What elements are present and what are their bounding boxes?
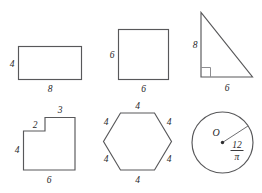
hexagon-lower-left-label: 4: [104, 154, 109, 164]
right-triangle-left-label: 8: [193, 40, 198, 50]
hexagon-lower-right-label: 4: [167, 154, 172, 164]
rectangle-bottom-label: 8: [48, 84, 53, 94]
l-shape-top-label: 3: [57, 105, 63, 115]
l-shape-left-label: 4: [15, 145, 20, 155]
hexagon-upper-left-label: 4: [104, 117, 109, 127]
rectangle-left-label: 4: [10, 59, 15, 69]
l-shape-outline: [24, 118, 76, 171]
circle-radius-denominator: π: [235, 152, 240, 162]
hexagon-upper-right-label: 4: [167, 117, 172, 127]
shape-square: 6 6: [110, 30, 169, 95]
shape-right-triangle: 8 6: [193, 13, 253, 94]
circle-radius-numerator: 12: [232, 140, 242, 150]
right-angle-marker-icon: [201, 68, 211, 78]
circle-center-label: O: [212, 127, 219, 138]
l-shape-bottom-label: 6: [47, 175, 52, 185]
right-triangle-bottom-label: 6: [225, 83, 230, 93]
l-shape-step-label: 2: [33, 120, 38, 130]
circle-center-dot: [221, 141, 224, 144]
square-left-label: 6: [110, 50, 115, 60]
hexagon-bottom-label: 4: [135, 175, 140, 185]
shape-l-shape: 3 2 4 6: [15, 105, 75, 185]
shape-rectangle: 4 8: [10, 47, 82, 95]
geometry-figure-sheet: 4 8 6 6 8 6 3 2 4 6 4 4 4: [0, 0, 262, 193]
shape-hexagon: 4 4 4 4 4 4: [104, 101, 172, 185]
shapes-canvas: 4 8 6 6 8 6 3 2 4 6 4 4 4: [0, 0, 262, 193]
square-outline: [119, 30, 169, 80]
square-bottom-label: 6: [141, 84, 146, 94]
hexagon-outline: [104, 113, 172, 170]
rectangle-outline: [19, 47, 82, 80]
hexagon-top-label: 4: [135, 101, 140, 111]
shape-circle: O 12 π: [192, 112, 253, 173]
